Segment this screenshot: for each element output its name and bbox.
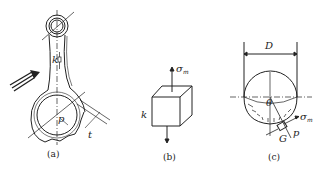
label-a-t: t [88,129,93,140]
arrowhead-up [170,67,174,71]
upper-arc [244,71,297,97]
cap-outline [45,112,84,142]
caption-c: (c) [268,152,280,162]
panel-c [230,42,312,138]
shank-right-inner [67,36,72,86]
load-arrowhead [30,70,40,79]
label-c-sigma-sub: m [307,116,313,123]
load-arrow-hatch [10,72,34,91]
label-c-theta: θ [266,97,272,108]
sigma-arrow-c-back [266,129,278,135]
section-line-2 [77,104,107,124]
label-b-k: k [141,109,147,120]
arrowhead-down [165,139,169,143]
small-end-axis [42,12,74,40]
panel-b [152,67,192,143]
sigma-c-arrowhead [295,116,299,119]
label-a-k: k [52,54,58,65]
label-c-G: G [279,133,287,144]
label-c-D: D [264,40,273,51]
label-a-p: p [58,113,65,124]
label-c-p: p [293,127,300,138]
panel-a [10,10,110,145]
diagram-canvas: k p t (a) σ m k (b) [0,0,323,174]
caption-a: (a) [47,149,59,159]
element-k [58,57,61,62]
label-b-sigma-sub: m [183,68,189,75]
caption-b: (b) [163,152,176,162]
cube-front [152,97,180,126]
